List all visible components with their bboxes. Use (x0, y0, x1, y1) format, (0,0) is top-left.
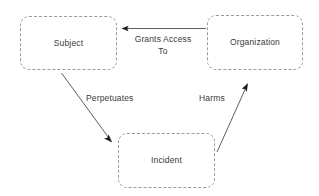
edge-label-grants-access-to-line1: Grants Access (122, 33, 204, 45)
edge-grants-access-to-arrowhead (122, 26, 129, 32)
edge-label-perpetuates: Perpetuates (86, 92, 148, 104)
edge-harms-arrowhead (242, 83, 248, 92)
node-organization[interactable]: Organization (207, 15, 303, 70)
node-organization-label: Organization (230, 38, 280, 47)
edge-grants-access-to (122, 26, 207, 32)
edge-perpetuates-line (62, 73, 109, 138)
edge-label-grants-access-to-line2: To (122, 45, 204, 57)
node-incident-label: Incident (151, 156, 182, 165)
node-subject-label: Subject (54, 39, 83, 48)
node-incident[interactable]: Incident (118, 133, 215, 188)
edge-label-grants-access-to: Grants Access To (122, 33, 204, 57)
edge-perpetuates (62, 73, 113, 143)
edge-perpetuates-arrowhead (104, 135, 112, 143)
edge-label-harms: Harms (199, 92, 239, 104)
node-subject[interactable]: Subject (20, 16, 117, 70)
diagram-canvas: Subject Organization Incident Grants Acc… (0, 0, 319, 196)
